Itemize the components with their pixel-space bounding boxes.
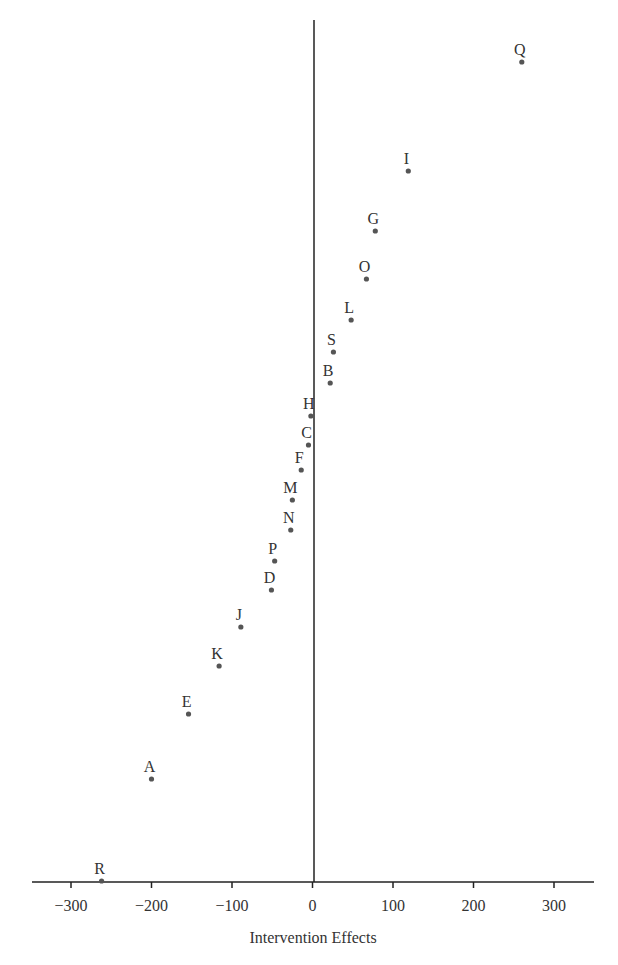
point-label: D (264, 569, 276, 586)
data-point-p: P (268, 540, 277, 564)
point-label: F (295, 449, 304, 466)
x-tick-label: 300 (542, 897, 566, 914)
data-point-d: D (264, 569, 276, 593)
point-label: E (182, 693, 192, 710)
point-label: L (344, 299, 354, 316)
data-point-f: F (295, 449, 304, 473)
point-marker (331, 349, 336, 354)
point-marker (406, 168, 411, 173)
point-label: O (359, 258, 371, 275)
point-label: K (211, 645, 223, 662)
point-label: I (404, 150, 409, 167)
point-label: Q (514, 41, 526, 58)
point-label: S (327, 331, 336, 348)
point-marker (269, 587, 274, 592)
data-point-o: O (359, 258, 371, 282)
data-point-s: S (327, 331, 336, 355)
data-point-g: G (368, 210, 380, 234)
x-tick-label: 0 (309, 897, 317, 914)
point-label: P (268, 540, 277, 557)
data-point-i: I (404, 150, 411, 174)
data-point-n: N (283, 509, 295, 533)
data-point-m: M (283, 479, 297, 503)
x-axis-title: Intervention Effects (249, 929, 376, 946)
x-tick-label: 200 (462, 897, 486, 914)
point-marker (288, 527, 293, 532)
x-tick-label: −200 (135, 897, 168, 914)
point-label: A (144, 758, 156, 775)
data-point-a: A (144, 758, 156, 782)
point-marker (328, 380, 333, 385)
point-label: M (283, 479, 297, 496)
data-point-b: B (323, 362, 334, 386)
x-tick-label: 100 (381, 897, 405, 914)
data-point-l: L (344, 299, 354, 323)
point-label: G (368, 210, 380, 227)
data-point-j: J (236, 606, 244, 630)
point-marker (364, 276, 369, 281)
point-marker (308, 413, 313, 418)
data-point-q: Q (514, 41, 526, 65)
point-label: H (303, 395, 315, 412)
data-point-c: C (301, 424, 312, 448)
data-point-h: H (303, 395, 315, 419)
data-point-r: R (94, 860, 105, 884)
data-point-k: K (211, 645, 223, 669)
point-marker (99, 878, 104, 883)
point-marker (217, 663, 222, 668)
point-label: N (283, 509, 295, 526)
point-marker (290, 497, 295, 502)
x-tick-label: −300 (54, 897, 87, 914)
point-marker (373, 228, 378, 233)
point-marker (519, 59, 524, 64)
x-tick-label: −100 (215, 897, 248, 914)
point-marker (299, 467, 304, 472)
data-points: QIGOLSBHCFMNPDJKEAR (94, 41, 526, 884)
point-label: C (301, 424, 312, 441)
point-marker (272, 558, 277, 563)
point-label: R (94, 860, 105, 877)
normal-probability-plot: −300−200−1000100200300 QIGOLSBHCFMNPDJKE… (0, 0, 618, 965)
point-marker (149, 776, 154, 781)
point-marker (306, 442, 311, 447)
data-point-e: E (182, 693, 192, 717)
point-marker (238, 624, 243, 629)
x-axis-ticks: −300−200−1000100200300 (54, 882, 566, 914)
point-label: J (236, 606, 242, 623)
point-marker (186, 711, 191, 716)
point-marker (349, 317, 354, 322)
point-label: B (323, 362, 334, 379)
